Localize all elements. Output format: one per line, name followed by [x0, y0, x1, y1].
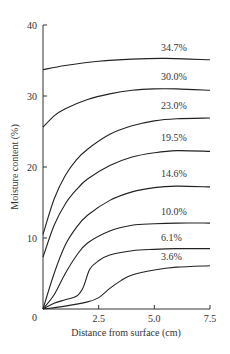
curve-label: 6.1%: [161, 232, 182, 243]
y-axis-label: Moisture content (%): [9, 124, 21, 210]
y-tick-label: 30: [27, 91, 37, 102]
moisture-chart: 0102030402.55.07.5 34.7%30.0%23.0%19.5%1…: [0, 0, 230, 354]
axes: 0102030402.55.07.5: [27, 20, 216, 325]
y-tick-label: 10: [27, 233, 37, 244]
curve-label: 23.0%: [161, 100, 187, 111]
curve-label: 19.5%: [161, 132, 187, 143]
x-tick-label: 5.0: [148, 313, 161, 324]
x-tick-label: 2.5: [92, 313, 105, 324]
curve-label: 3.6%: [161, 251, 182, 262]
curve-19.5pct: [43, 151, 210, 258]
curve-6.1pct: [43, 249, 210, 309]
curve-34.7pct: [43, 58, 210, 69]
x-axis-label: Distance from surface (cm): [71, 327, 181, 339]
curve-label: 34.7%: [161, 42, 187, 53]
y-tick-label: 20: [27, 162, 37, 173]
curve-3.6pct: [43, 266, 210, 309]
curve-10.0pct: [43, 223, 210, 309]
y-tick-label: 0: [32, 312, 37, 323]
x-tick-label: 7.5: [204, 313, 217, 324]
curves: [43, 58, 210, 309]
curve-label: 10.0%: [161, 206, 187, 217]
curve-label: 14.6%: [161, 168, 187, 179]
curve-label: 30.0%: [161, 71, 187, 82]
y-tick-label: 40: [27, 20, 37, 31]
